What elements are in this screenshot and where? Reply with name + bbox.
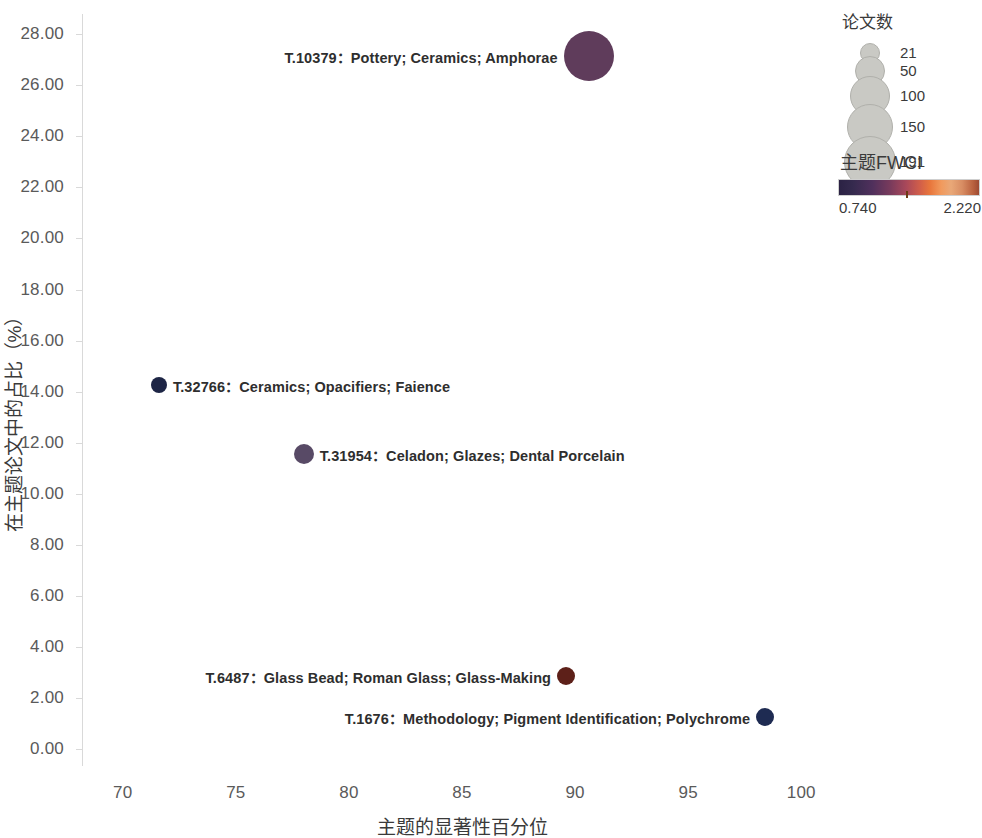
- colorbar-tick-labels: 0.740 2.220: [838, 199, 982, 219]
- x-axis-tick-label: 80: [339, 783, 358, 803]
- x-axis-tick-label: 85: [452, 783, 471, 803]
- color-legend-title: 主题FWCI: [840, 148, 982, 174]
- size-legend-label: 21: [900, 44, 917, 61]
- size-legend-title: 论文数: [842, 8, 982, 33]
- size-legend-label: 150: [900, 117, 925, 134]
- size-legend: 论文数 2150100150191: [838, 8, 982, 159]
- colorbar-min-label: 0.740: [839, 199, 877, 216]
- size-legend-label: 100: [900, 87, 925, 104]
- x-axis-tick-label: 70: [113, 783, 132, 803]
- size-legend-label: 50: [900, 62, 917, 79]
- x-axis-tick-label: 100: [787, 783, 816, 803]
- x-axis-tick-label: 90: [565, 783, 584, 803]
- colorbar-max-label: 2.220: [943, 199, 981, 216]
- colorbar-tick-marker: [906, 191, 908, 198]
- color-legend: 主题FWCI 0.740 2.220: [838, 148, 982, 219]
- x-axis-tick-labels: 707580859095100: [0, 0, 982, 838]
- chart-root: T.10379：Pottery; Ceramics; AmphoraeT.327…: [0, 0, 982, 838]
- x-axis-tick-label: 75: [226, 783, 245, 803]
- x-axis-title: 主题的显著性百分位: [82, 812, 842, 838]
- size-legend-items: 2150100150191: [838, 37, 982, 159]
- colorbar-gradient: [838, 179, 980, 196]
- x-axis-tick-label: 95: [679, 783, 698, 803]
